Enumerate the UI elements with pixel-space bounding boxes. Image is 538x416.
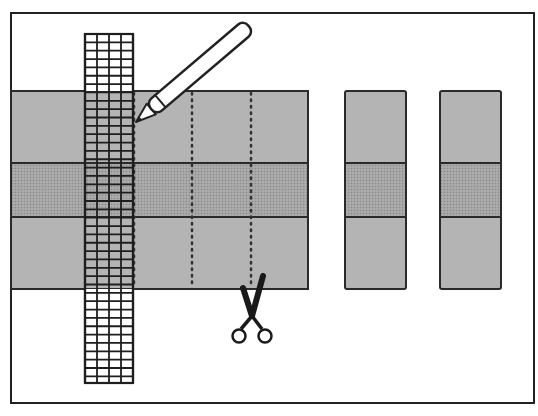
strip-band-top bbox=[440, 91, 501, 163]
cut-strip bbox=[440, 91, 501, 289]
strip-band-bottom bbox=[440, 217, 501, 289]
strip-band-middle bbox=[345, 163, 406, 217]
cut-strip bbox=[345, 91, 406, 289]
strip-band-bottom bbox=[345, 217, 406, 289]
panel-band-middle bbox=[11, 163, 308, 217]
pieced-panel bbox=[11, 91, 308, 289]
gridded-ruler[interactable] bbox=[85, 34, 133, 383]
strip-band-top bbox=[345, 91, 406, 163]
strip-cutting-illustration bbox=[0, 0, 538, 416]
strip-band-middle bbox=[440, 163, 501, 217]
